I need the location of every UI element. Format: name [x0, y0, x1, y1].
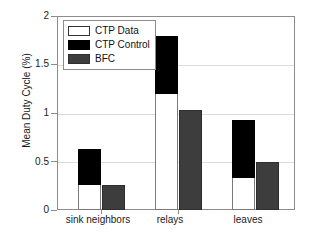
x-tick-label-leaves: leaves: [218, 214, 278, 225]
bar-bfc-leaves: [256, 162, 279, 210]
bar-ctp-control-relays: [155, 36, 178, 94]
y-tick-mark-0: [51, 210, 57, 211]
y-tick-label-1.5: 1.5: [9, 59, 49, 69]
y-tick-label-0.5: 0.5: [9, 157, 49, 167]
x-tick-label-relays: relays: [140, 214, 200, 225]
legend-item-ctp-control: CTP Control: [68, 38, 150, 52]
chart-figure: Mean Duty Cycle (%) 2 1.5 1 0.5 0 CTP Da…: [0, 0, 311, 234]
bar-bfc-sink-neighbors: [102, 185, 125, 210]
legend-label-ctp-data: CTP Data: [95, 26, 139, 36]
legend-item-bfc: BFC: [68, 52, 150, 66]
plot-area: CTP Data CTP Control BFC: [57, 16, 295, 210]
legend-label-ctp-control: CTP Control: [95, 40, 150, 50]
bar-ctp-control-leaves: [232, 120, 255, 178]
bar-bfc-relays: [179, 110, 202, 210]
x-tick-label-sink-neighbors: sink neighbors: [58, 214, 138, 225]
y-tick-label-0: 0: [9, 205, 49, 215]
gray-swatch-icon: [68, 54, 90, 64]
black-swatch-icon: [68, 40, 90, 50]
y-tick-label-1: 1: [9, 108, 49, 118]
legend: CTP Data CTP Control BFC: [63, 20, 156, 70]
legend-label-bfc: BFC: [95, 54, 115, 64]
bar-ctp-data-leaves: [232, 177, 255, 210]
bar-ctp-data-relays: [155, 93, 178, 210]
y-tick-label-2: 2: [9, 11, 49, 21]
bar-ctp-control-sink-neighbors: [78, 149, 101, 185]
legend-item-ctp-data: CTP Data: [68, 24, 150, 38]
white-swatch-icon: [68, 26, 90, 36]
